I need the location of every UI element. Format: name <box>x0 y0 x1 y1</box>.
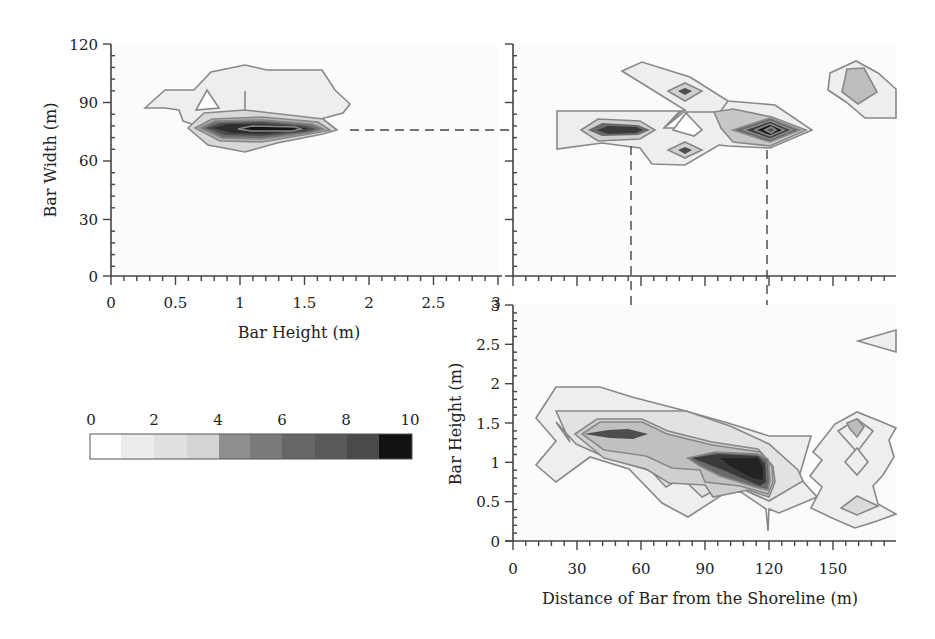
svg-text:0.5: 0.5 <box>476 493 500 511</box>
colorbar-labels: 0 2 4 6 8 10 <box>86 411 419 429</box>
y-tick-labels: 3 2.5 2 1.5 1 0.5 0 <box>476 297 500 551</box>
svg-text:120: 120 <box>69 36 98 54</box>
svg-text:2: 2 <box>364 294 374 312</box>
svg-text:0: 0 <box>86 411 96 429</box>
svg-text:0: 0 <box>106 294 116 312</box>
svg-text:2.5: 2.5 <box>476 336 500 354</box>
y-tick-labels: 120 90 60 30 0 <box>69 36 98 286</box>
svg-text:60: 60 <box>631 560 650 578</box>
colorbar-legend: 0 2 4 6 8 10 <box>86 411 419 459</box>
svg-text:4: 4 <box>213 411 223 429</box>
x-ticks <box>111 276 498 285</box>
svg-text:0: 0 <box>508 560 518 578</box>
svg-text:1: 1 <box>490 454 500 472</box>
svg-text:2.5: 2.5 <box>422 294 446 312</box>
svg-text:1.5: 1.5 <box>293 294 317 312</box>
svg-text:60: 60 <box>79 152 98 170</box>
svg-text:120: 120 <box>755 560 784 578</box>
svg-text:90: 90 <box>79 94 98 112</box>
y-axis-title: Bar Width (m) <box>41 102 60 217</box>
x-ticks <box>513 276 884 286</box>
svg-text:30: 30 <box>567 560 586 578</box>
x-tick-labels: 0 30 60 90 120 150 <box>508 560 847 578</box>
panel-height-vs-distance: 3 2.5 2 1.5 1 0.5 0 0 30 60 90 <box>446 297 896 608</box>
svg-text:1: 1 <box>235 294 245 312</box>
svg-text:0.5: 0.5 <box>164 294 188 312</box>
svg-text:150: 150 <box>819 560 848 578</box>
svg-text:0: 0 <box>490 533 500 551</box>
contour-level-7 <box>238 126 301 131</box>
x-tick-labels: 0 0.5 1 1.5 2 2.5 3 <box>106 294 501 312</box>
svg-text:1.5: 1.5 <box>476 415 500 433</box>
svg-text:2: 2 <box>490 375 500 393</box>
svg-text:6: 6 <box>277 411 287 429</box>
x-axis-title: Bar Height (m) <box>238 323 360 342</box>
x-ticks <box>513 541 884 550</box>
svg-text:0: 0 <box>88 268 98 286</box>
svg-text:3: 3 <box>490 297 500 315</box>
svg-text:10: 10 <box>400 411 419 429</box>
contour-figure: 120 90 60 30 0 0 0.5 1 1.5 2 <box>0 0 935 639</box>
colorbar-swatches <box>90 434 412 459</box>
x-axis-title: Distance of Bar from the Shoreline (m) <box>542 589 858 608</box>
svg-text:2: 2 <box>149 411 159 429</box>
svg-text:90: 90 <box>695 560 714 578</box>
y-axis-title: Bar Height (m) <box>446 363 465 485</box>
svg-text:30: 30 <box>79 211 98 229</box>
panel-width-vs-height: 120 90 60 30 0 0 0.5 1 1.5 2 <box>41 36 513 342</box>
svg-text:8: 8 <box>341 411 351 429</box>
